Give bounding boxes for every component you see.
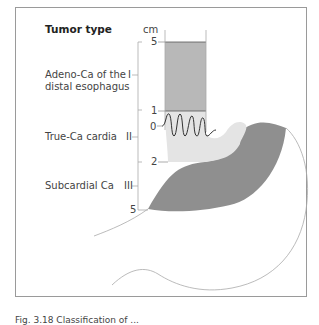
type-iii-roman: III [124,180,133,192]
stomach-lesser-curve [94,209,148,236]
type-i-roman: I [128,69,131,81]
scale-tick-2: 2 [151,156,157,168]
type-ii-label: True-Ca cardia [45,131,117,143]
scale-tick-5-top: 5 [151,36,157,48]
scale-tick-5-bottom: 5 [130,204,136,216]
scale-tick-1: 1 [151,105,157,117]
type-i-label-line1: Adeno-Ca of the [45,69,126,81]
type-iii-label: Subcardial Ca [45,180,114,192]
type-i-label-line2: distal esophagus [45,81,130,93]
figure-caption: Fig. 3.18 Classification of ... [15,315,139,325]
type-i-region [165,42,206,111]
scale-tick-0: 0 [150,121,156,133]
unit-label: cm [143,24,158,36]
type-ii-roman: II [126,131,132,143]
diagram-title: Tumor type [45,23,112,35]
